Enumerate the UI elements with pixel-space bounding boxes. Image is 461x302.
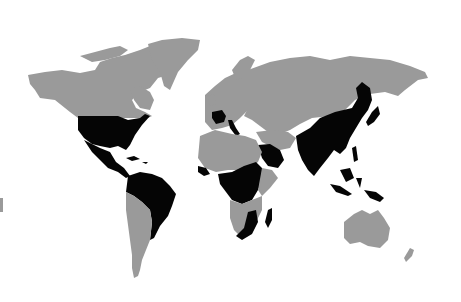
region-papua (364, 190, 384, 202)
region-greenland (148, 38, 200, 90)
edge-artifact (0, 198, 3, 212)
region-new-zealand (404, 248, 414, 262)
region-australia (344, 210, 390, 248)
region-caribbean (126, 156, 148, 164)
region-madagascar (265, 208, 272, 228)
region-philippines (352, 146, 358, 162)
region-indonesia (330, 168, 362, 196)
world-map (0, 0, 461, 302)
